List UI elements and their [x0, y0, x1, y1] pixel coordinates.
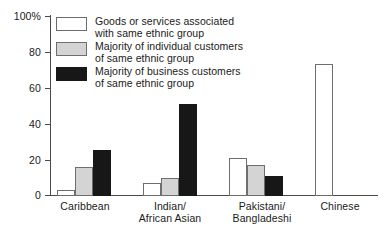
- legend-label-business-customers: Majority of business customers of same e…: [95, 66, 241, 89]
- bar-pakistani-bangladeshi-business-customers: [265, 176, 283, 196]
- bar-caribbean-business-customers: [93, 150, 111, 196]
- bar-chart: 100% 80 60 40 20 0 Caribbean Indian/ Afr…: [0, 0, 386, 249]
- legend-item-goods-or-services: Goods or services associated with same e…: [56, 16, 243, 39]
- bar-indian-african-asian-individual-customers: [161, 178, 179, 196]
- legend-label-goods-or-services: Goods or services associated with same e…: [95, 16, 234, 39]
- bar-indian-african-asian-goods-services: [143, 183, 161, 196]
- bar-pakistani-bangladeshi-goods-services: [229, 158, 247, 196]
- bar-indian-african-asian-business-customers: [179, 104, 197, 196]
- category-label-caribbean: Caribbean: [40, 200, 130, 212]
- bar-chinese-goods-services: [315, 64, 333, 195]
- legend-swatch-black-icon: [56, 67, 87, 81]
- chart-legend: Goods or services associated with same e…: [56, 16, 243, 91]
- legend-item-individual-customers: Majority of individual customers of same…: [56, 41, 243, 64]
- legend-item-business-customers: Majority of business customers of same e…: [56, 66, 243, 89]
- legend-label-individual-customers: Majority of individual customers of same…: [95, 41, 243, 64]
- bar-caribbean-goods-services: [57, 190, 75, 195]
- category-label-pakistani-bangladeshi: Pakistani/ Bangladeshi: [212, 200, 312, 224]
- bar-caribbean-individual-customers: [75, 167, 93, 196]
- category-label-chinese: Chinese: [300, 200, 380, 212]
- legend-swatch-white-icon: [56, 17, 87, 31]
- category-label-indian-african-asian: Indian/ African Asian: [120, 200, 220, 224]
- legend-swatch-grey-icon: [56, 42, 87, 56]
- bar-pakistani-bangladeshi-individual-customers: [247, 165, 265, 196]
